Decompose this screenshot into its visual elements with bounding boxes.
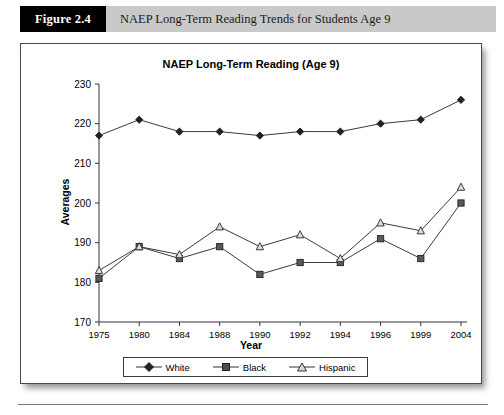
legend-label-white: White [165, 362, 190, 373]
data-point-white [377, 120, 384, 127]
data-point-hispanic [457, 183, 464, 190]
figure-number-badge: Figure 2.4 [20, 6, 106, 32]
legend-item-black: Black [213, 361, 266, 373]
y-tick-label: 190 [74, 237, 91, 248]
y-tick-label: 210 [74, 158, 91, 169]
data-point-black [217, 244, 223, 250]
chart-plot-area: 1701801902002102202301975198019841988199… [21, 44, 483, 385]
data-point-hispanic [95, 266, 102, 273]
line-chart: 1701801902002102202301975198019841988199… [21, 44, 483, 385]
data-point-black [297, 259, 303, 265]
y-tick-label: 230 [74, 79, 91, 90]
data-point-black [377, 236, 383, 242]
x-tick-label: 2004 [450, 329, 471, 340]
y-tick-label: 180 [74, 277, 91, 288]
data-point-white [176, 128, 183, 135]
data-point-white [337, 128, 344, 135]
legend-marker-filled-diamond-icon [136, 361, 162, 373]
data-point-white [256, 132, 263, 139]
data-point-hispanic [377, 219, 384, 226]
legend-item-white: White [136, 361, 190, 373]
chart-legend: White Black Hispanic [123, 357, 368, 377]
data-point-white [95, 132, 102, 139]
legend-marker-open-triangle-icon [289, 361, 315, 373]
data-point-black [418, 255, 424, 261]
series-line-hispanic [99, 187, 461, 270]
y-axis-title: Averages [59, 152, 71, 252]
figure-caption: NAEP Long-Term Reading Trends for Studen… [106, 6, 496, 32]
data-point-black [96, 275, 102, 281]
series-line-white [99, 100, 461, 136]
data-point-white [216, 128, 223, 135]
data-point-black [257, 271, 263, 277]
data-point-white [417, 116, 424, 123]
data-point-white [136, 116, 143, 123]
figure-header: Figure 2.4 NAEP Long-Term Reading Trends… [20, 6, 496, 32]
y-tick-label: 200 [74, 198, 91, 209]
y-tick-label: 170 [74, 317, 91, 328]
bottom-divider [18, 404, 488, 405]
y-tick-label: 220 [74, 118, 91, 129]
x-axis-title: Year [81, 339, 421, 351]
data-point-hispanic [216, 223, 223, 230]
data-point-white [297, 128, 304, 135]
legend-marker-filled-square-icon [213, 361, 239, 373]
data-point-white [457, 96, 464, 103]
figure-panel: NAEP Long-Term Reading (Age 9) 170180190… [20, 43, 482, 384]
legend-item-hispanic: Hispanic [289, 361, 355, 373]
legend-label-black: Black [242, 362, 266, 373]
legend-label-hispanic: Hispanic [318, 362, 355, 373]
data-point-black [458, 200, 464, 206]
data-point-hispanic [296, 231, 303, 238]
